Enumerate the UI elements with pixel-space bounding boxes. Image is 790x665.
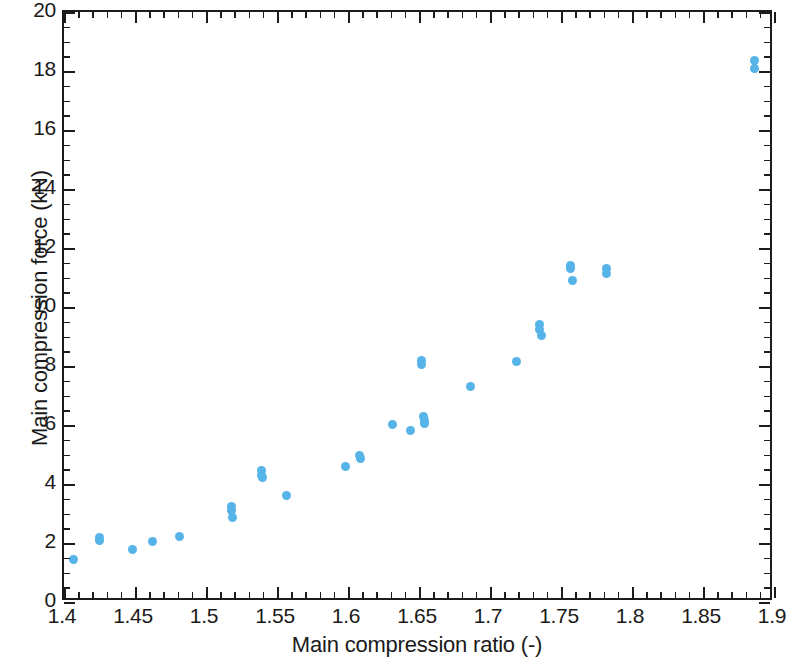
- x-axis-major-tick: [348, 587, 350, 598]
- x-axis-minor-tick: [589, 592, 591, 598]
- x-axis-minor-tick: [604, 592, 606, 598]
- y-axis-right-minor-tick: [764, 27, 770, 29]
- x-axis-minor-tick: [234, 592, 236, 598]
- x-axis-top-minor-tick: [746, 12, 748, 18]
- y-axis-right-minor-tick: [764, 115, 770, 117]
- x-axis-major-tick: [632, 587, 634, 598]
- x-axis-major-tick: [206, 587, 208, 598]
- x-axis-top-minor-tick: [78, 12, 80, 18]
- data-point: [420, 419, 429, 428]
- x-axis-top-minor-tick: [462, 12, 464, 18]
- x-axis-minor-tick: [433, 592, 435, 598]
- x-axis-minor-tick: [476, 592, 478, 598]
- data-point: [566, 264, 575, 273]
- x-axis-top-minor-tick: [263, 12, 265, 18]
- x-axis-tick-label: 1.5: [190, 604, 218, 628]
- y-axis-right-minor-tick: [764, 381, 770, 383]
- x-axis-top-minor-tick: [575, 12, 577, 18]
- x-axis-tick-label: 1.6: [332, 604, 360, 628]
- y-axis-right-minor-tick: [764, 42, 770, 44]
- y-axis-right-major-tick: [759, 366, 770, 368]
- y-axis-right-minor-tick: [764, 233, 770, 235]
- y-axis-right-minor-tick: [764, 396, 770, 398]
- x-axis-minor-tick: [547, 592, 549, 598]
- x-axis-minor-tick: [675, 592, 677, 598]
- y-axis-minor-tick: [64, 410, 70, 412]
- x-axis-minor-tick: [320, 592, 322, 598]
- y-axis-major-tick: [64, 248, 75, 250]
- x-axis-top-minor-tick: [689, 12, 691, 18]
- x-axis-minor-tick: [518, 592, 520, 598]
- x-axis-top-major-tick: [774, 12, 776, 23]
- x-axis-top-minor-tick: [731, 12, 733, 18]
- scatter-chart-figure: 1.41.451.51.551.61.651.71.751.81.851.9 0…: [0, 0, 790, 665]
- x-axis-top-minor-tick: [533, 12, 535, 18]
- y-axis-minor-tick: [64, 351, 70, 353]
- y-axis-minor-tick: [64, 573, 70, 575]
- data-point: [69, 555, 78, 564]
- x-axis-minor-tick: [107, 592, 109, 598]
- x-axis-major-tick: [277, 587, 279, 598]
- y-axis-minor-tick: [64, 27, 70, 29]
- x-axis-minor-tick: [405, 592, 407, 598]
- data-point: [128, 545, 137, 554]
- y-axis-major-tick: [64, 130, 75, 132]
- y-axis-right-minor-tick: [764, 145, 770, 147]
- y-axis-right-minor-tick: [764, 278, 770, 280]
- y-axis-right-minor-tick: [764, 587, 770, 589]
- x-axis-top-minor-tick: [675, 12, 677, 18]
- x-axis-tick-label: 1.7: [474, 604, 502, 628]
- data-points-layer: [64, 12, 770, 598]
- x-axis-top-minor-tick: [518, 12, 520, 18]
- y-axis-right-minor-tick: [764, 573, 770, 575]
- x-axis-top-major-tick: [419, 12, 421, 23]
- data-point: [258, 473, 267, 482]
- y-axis-right-minor-tick: [764, 337, 770, 339]
- y-axis-major-tick: [64, 484, 75, 486]
- x-axis-top-minor-tick: [660, 12, 662, 18]
- data-point: [388, 420, 397, 429]
- x-axis-top-minor-tick: [291, 12, 293, 18]
- x-axis-top-major-tick: [703, 12, 705, 23]
- y-axis-minor-tick: [64, 42, 70, 44]
- x-axis-tick-label: 1.65: [397, 604, 437, 628]
- x-axis-minor-tick: [746, 592, 748, 598]
- y-axis-minor-tick: [64, 263, 70, 265]
- x-axis-tick-label: 1.45: [113, 604, 153, 628]
- y-axis-minor-tick: [64, 455, 70, 457]
- x-axis-top-major-tick: [206, 12, 208, 23]
- y-axis-minor-tick: [64, 587, 70, 589]
- y-axis-right-minor-tick: [764, 86, 770, 88]
- x-axis-major-tick: [703, 587, 705, 598]
- y-axis-minor-tick: [64, 514, 70, 516]
- y-axis-right-minor-tick: [764, 558, 770, 560]
- x-axis-top-major-tick: [64, 12, 66, 23]
- y-axis-right-minor-tick: [764, 292, 770, 294]
- y-axis-minor-tick: [64, 219, 70, 221]
- y-axis-title: Main compression force (kN): [27, 13, 53, 603]
- x-axis-minor-tick: [533, 592, 535, 598]
- data-point: [537, 331, 546, 340]
- x-axis-top-minor-tick: [107, 12, 109, 18]
- y-axis-right-minor-tick: [764, 440, 770, 442]
- x-axis-top-minor-tick: [320, 12, 322, 18]
- y-axis-minor-tick: [64, 233, 70, 235]
- x-axis-minor-tick: [334, 592, 336, 598]
- x-axis-minor-tick: [618, 592, 620, 598]
- y-axis-minor-tick: [64, 160, 70, 162]
- y-axis-right-minor-tick: [764, 469, 770, 471]
- y-axis-minor-tick: [64, 469, 70, 471]
- x-axis-major-tick: [490, 587, 492, 598]
- y-axis-right-minor-tick: [764, 528, 770, 530]
- x-axis-top-major-tick: [490, 12, 492, 23]
- x-axis-top-minor-tick: [391, 12, 393, 18]
- y-axis-right-major-tick: [759, 12, 770, 14]
- x-axis-top-minor-tick: [234, 12, 236, 18]
- data-point: [356, 454, 365, 463]
- x-axis-top-minor-tick: [646, 12, 648, 18]
- y-axis-minor-tick: [64, 528, 70, 530]
- y-axis-right-major-tick: [759, 425, 770, 427]
- y-axis-right-major-tick: [759, 307, 770, 309]
- y-axis-right-minor-tick: [764, 204, 770, 206]
- x-axis-tick-label: 1.85: [681, 604, 721, 628]
